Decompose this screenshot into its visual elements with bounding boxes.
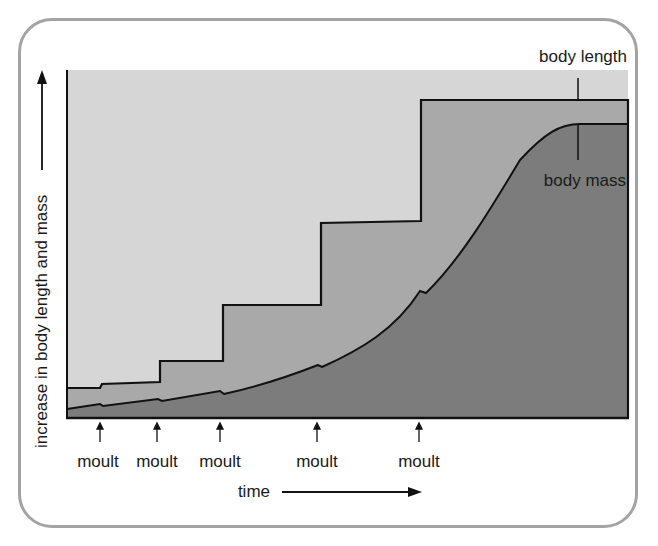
moult-label: moult <box>199 452 241 471</box>
moult-label: moult <box>77 452 119 471</box>
moult-label: moult <box>136 452 178 471</box>
moult-arrows <box>97 423 422 442</box>
growth-chart: body length body mass moult moult moult … <box>0 0 658 546</box>
y-arrowhead-icon <box>37 70 47 84</box>
x-axis-label: time <box>238 482 270 501</box>
y-axis-label: increase in body length and mass <box>32 195 51 448</box>
moult-label: moult <box>398 452 440 471</box>
body-mass-label: body mass <box>544 171 626 190</box>
time-arrowhead-icon <box>408 487 422 497</box>
body-length-label: body length <box>539 47 627 66</box>
moult-label: moult <box>296 452 338 471</box>
